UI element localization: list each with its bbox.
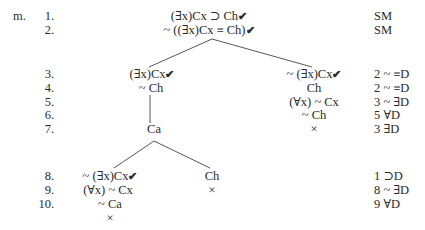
left-formula-line-3: (∃x)Cx✔ <box>130 67 175 81</box>
check-mark-icon: ✔ <box>128 170 137 182</box>
justification: 9 ∀D <box>374 197 400 211</box>
subleft-formula-line-9: (∀x) ~ Cx <box>83 183 133 197</box>
justification: 2 ~ ≡D <box>374 81 409 95</box>
justification: SM <box>374 9 392 23</box>
right-formula-line-6: ~ Ch <box>302 108 326 122</box>
justification: 8 ~ ∃D <box>374 183 409 197</box>
justification: 2 ~ ≡D <box>374 67 409 81</box>
subleft-formula-line-8: ~ (∃x)Cx✔ <box>83 169 138 183</box>
justification: SM <box>374 23 392 37</box>
line-number: 2. <box>45 23 54 37</box>
justification: 5 ∀D <box>374 108 400 122</box>
check-mark-icon: ✔ <box>246 24 255 36</box>
closed-branch-cross-icon: × <box>208 183 215 197</box>
right-formula-line-5: (∀x) ~ Cx <box>289 95 339 109</box>
check-mark-icon: ✔ <box>332 68 341 80</box>
line-number: 10. <box>38 197 54 211</box>
closed-branch-cross-icon: × <box>310 122 317 136</box>
line-number: 1. <box>45 9 54 23</box>
subleft-formula-line-10: ~ Ca <box>98 197 122 211</box>
line-number: 5. <box>45 95 54 109</box>
check-mark-icon: ✔ <box>165 68 174 80</box>
closed-branch-cross-icon: × <box>106 211 113 225</box>
justification: 3 ∃D <box>374 122 399 136</box>
right-formula-line-4: Ch <box>307 81 322 95</box>
formula-line-1: (∃x)Cx ⊃ Ch✔ <box>171 9 247 23</box>
subright-formula-line-8: Ch <box>205 169 220 183</box>
line-number: 6. <box>45 108 54 122</box>
left-formula-line-7: Ca <box>147 122 161 136</box>
left-formula-line-4: ~ Ch <box>139 81 163 95</box>
line-number: 8. <box>45 169 54 183</box>
line-number: 3. <box>45 67 54 81</box>
check-mark-icon: ✔ <box>238 10 247 22</box>
line-number: 7. <box>45 122 54 136</box>
formula-line-2: ~ ((∃x)Cx ≡ Ch)✔ <box>163 23 254 37</box>
justification: 1 ⊃D <box>374 169 403 183</box>
line-number: 4. <box>45 81 54 95</box>
justification: 3 ~ ∃D <box>374 95 409 109</box>
line-number: 9. <box>45 183 54 197</box>
right-formula-line-3: ~ (∃x)Cx✔ <box>287 67 342 81</box>
problem-label: m. <box>13 9 26 23</box>
